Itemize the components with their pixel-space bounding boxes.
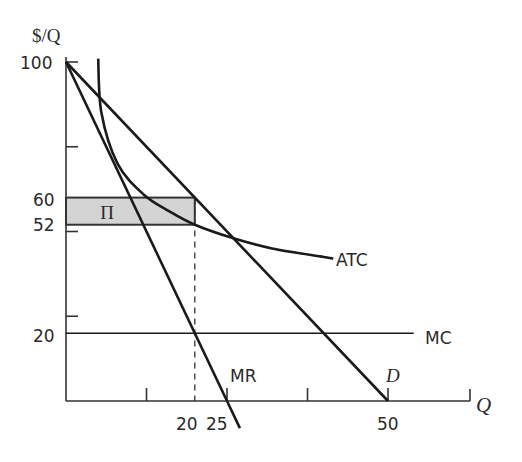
y-tick-label-60: 60 [33, 190, 55, 210]
y-tick-label-20: 20 [33, 326, 55, 346]
profit-label: Π [100, 202, 114, 223]
y-ticks [66, 62, 78, 316]
mc-label: MC [425, 328, 452, 348]
x-tick-label-50: 50 [377, 414, 399, 434]
x-axis-label: Q [476, 393, 491, 417]
monopoly-chart: Π $/Q 100 60 52 20 20 25 50 Q ATC MC MR … [0, 0, 522, 462]
atc-label: ATC [336, 250, 368, 270]
mr-label: MR [230, 366, 257, 386]
profit-area [66, 198, 195, 225]
x-tick-label-25: 25 [206, 414, 228, 434]
y-tick-label-52: 52 [33, 215, 55, 235]
y-axis-label: $/Q [32, 25, 61, 46]
y-tick-label-100: 100 [20, 53, 52, 73]
x-ticks [147, 388, 389, 401]
mr-curve [66, 62, 240, 428]
demand-label: D [385, 365, 400, 386]
x-tick-label-20: 20 [176, 414, 198, 434]
demand-curve [66, 62, 388, 401]
atc-curve [98, 59, 333, 259]
axes [66, 57, 470, 401]
